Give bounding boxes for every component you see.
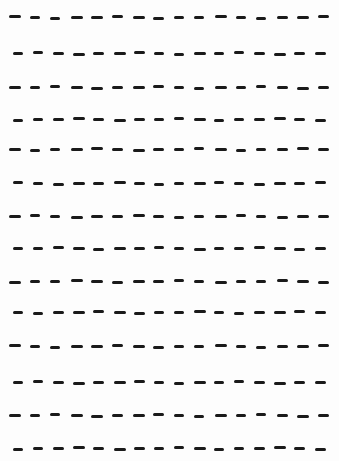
dash-segment: [194, 447, 206, 450]
dash-segment: [154, 381, 164, 384]
dash-segment: [254, 246, 265, 249]
dash-segment: [133, 149, 145, 152]
dash-segment: [274, 182, 286, 185]
dash-segment: [174, 53, 184, 56]
dash-segment: [71, 148, 83, 151]
dash-segment: [93, 182, 104, 185]
dash-segment: [315, 247, 326, 250]
dash-segment: [53, 311, 64, 314]
dash-segment: [13, 119, 23, 122]
dashed-line-row: [0, 214, 339, 220]
dash-segment: [73, 446, 85, 449]
dash-segment: [91, 345, 103, 348]
dashed-line-row: [0, 344, 339, 350]
dash-segment: [234, 312, 244, 315]
dash-segment: [274, 382, 286, 385]
dash-segment: [30, 414, 40, 417]
dashed-line-row: [0, 85, 339, 91]
dash-segment: [174, 345, 184, 348]
dash-segment: [236, 345, 246, 348]
dash-segment: [30, 345, 40, 348]
dash-segment: [114, 448, 126, 451]
dash-segment: [153, 17, 164, 20]
dash-segment: [71, 279, 83, 282]
dash-segment: [294, 182, 305, 185]
dash-segment: [73, 247, 85, 250]
dash-segment: [174, 311, 184, 314]
dash-segment: [174, 117, 184, 120]
dash-segment: [33, 247, 43, 250]
dash-segment: [294, 381, 305, 384]
dash-segment: [154, 118, 164, 121]
dash-segment: [214, 181, 224, 184]
dash-segment: [256, 148, 266, 151]
dash-segment: [277, 345, 288, 348]
dash-segment: [277, 16, 288, 19]
dash-segment: [93, 118, 104, 121]
dash-segment: [73, 182, 85, 185]
dash-segment: [114, 381, 126, 384]
dash-segment: [315, 381, 326, 384]
dash-segment: [174, 382, 184, 385]
dash-segment: [9, 344, 21, 347]
dash-segment: [154, 246, 164, 249]
dash-segment: [194, 16, 204, 19]
dash-segment: [234, 447, 244, 450]
dash-segment: [71, 16, 83, 19]
dash-segment: [91, 16, 103, 19]
dash-segment: [112, 344, 123, 347]
dash-segment: [153, 148, 164, 151]
dash-segment: [13, 381, 23, 384]
dash-segment: [214, 311, 224, 314]
dash-segment: [30, 86, 40, 89]
dash-segment: [254, 52, 265, 55]
dash-segment: [318, 148, 329, 151]
dash-segment: [194, 215, 204, 218]
dash-segment: [297, 87, 309, 90]
dash-segment: [214, 247, 224, 250]
dash-segment: [112, 148, 123, 151]
dash-segment: [153, 346, 164, 349]
dash-segment: [236, 214, 246, 217]
dash-segment: [254, 311, 265, 314]
dash-segment: [297, 415, 309, 418]
dash-segment: [318, 15, 329, 18]
dash-segment: [53, 52, 64, 55]
dash-segment: [53, 183, 64, 186]
dash-segment: [174, 148, 184, 151]
dash-segment: [71, 345, 83, 348]
dash-segment: [215, 86, 227, 89]
dashed-line-row: [0, 181, 339, 187]
dash-segment: [112, 414, 123, 417]
dash-segment: [297, 345, 309, 348]
dash-segment: [133, 280, 145, 283]
dash-segment: [174, 86, 184, 89]
dash-segment: [114, 311, 126, 314]
dash-segment: [154, 311, 164, 314]
dash-segment: [133, 214, 145, 217]
dash-segment: [153, 280, 164, 283]
dash-segment: [134, 380, 145, 383]
dash-segment: [73, 53, 85, 56]
dash-segment: [9, 15, 21, 18]
dash-segment: [50, 17, 60, 20]
dash-segment: [214, 52, 224, 55]
dashed-line-row: [0, 310, 339, 316]
dash-segment: [297, 147, 309, 150]
dash-segment: [91, 215, 103, 218]
dash-segment: [71, 216, 83, 219]
dash-segment: [50, 346, 60, 349]
dashed-line-row: [0, 446, 339, 452]
dash-segment: [256, 346, 266, 349]
dash-segment: [194, 182, 206, 185]
dash-segment: [254, 118, 265, 121]
dash-segment: [30, 16, 40, 19]
dashed-line-row: [0, 51, 339, 57]
dash-segment: [13, 52, 23, 55]
dash-segment: [215, 414, 227, 417]
dash-segment: [13, 311, 23, 314]
dash-segment: [134, 182, 145, 185]
dash-segment: [294, 447, 305, 450]
dash-segment: [33, 447, 43, 450]
dash-segment: [154, 52, 164, 55]
